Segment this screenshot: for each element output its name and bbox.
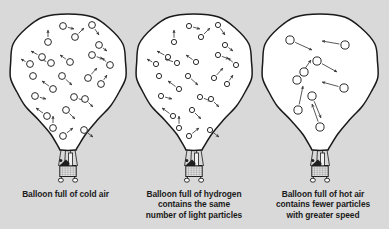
particle bbox=[89, 52, 96, 59]
particle bbox=[107, 62, 114, 69]
particle bbox=[50, 125, 57, 132]
particle bbox=[293, 76, 301, 84]
particle bbox=[71, 94, 78, 101]
particle bbox=[215, 22, 220, 27]
particle bbox=[189, 107, 194, 112]
balloons-layer bbox=[10, 14, 378, 182]
particle bbox=[98, 81, 105, 88]
particle bbox=[193, 59, 198, 64]
particle bbox=[170, 113, 175, 118]
particle bbox=[165, 54, 170, 59]
particle bbox=[185, 73, 190, 78]
particle bbox=[294, 106, 302, 114]
particle bbox=[341, 41, 349, 49]
caption-hydrogen-line-2: contains the same bbox=[131, 199, 257, 209]
particle bbox=[308, 92, 316, 100]
particle bbox=[45, 39, 52, 46]
particle bbox=[32, 93, 39, 100]
particle bbox=[174, 60, 179, 65]
particle bbox=[316, 123, 324, 131]
particle bbox=[48, 60, 55, 67]
caption-hydrogen: Balloon full of hydrogen contains the sa… bbox=[131, 186, 257, 220]
caption-hot-line-3: with greater speed bbox=[257, 210, 389, 220]
particle bbox=[60, 133, 67, 140]
particle bbox=[59, 73, 66, 80]
particle bbox=[96, 42, 103, 49]
particle bbox=[89, 22, 96, 29]
particle bbox=[286, 36, 294, 44]
particle bbox=[82, 96, 89, 103]
particle bbox=[72, 34, 79, 41]
particle bbox=[208, 96, 213, 101]
particle bbox=[39, 54, 46, 61]
particle bbox=[340, 84, 348, 92]
particle bbox=[158, 93, 163, 98]
particle bbox=[81, 127, 88, 134]
caption-hydrogen-line-1: Balloon full of hydrogen bbox=[131, 189, 257, 199]
particle bbox=[153, 61, 158, 66]
particle bbox=[156, 73, 161, 78]
particle bbox=[171, 39, 176, 44]
particle bbox=[233, 62, 238, 67]
particle bbox=[198, 34, 203, 39]
particle bbox=[313, 57, 321, 65]
caption-hot-air: Balloon full of hot air contains fewer p… bbox=[257, 186, 389, 220]
caption-hydrogen-line-3: number of light particles bbox=[131, 210, 257, 220]
particle bbox=[60, 23, 67, 30]
particle bbox=[300, 68, 308, 76]
particle bbox=[197, 94, 202, 99]
particle bbox=[215, 52, 220, 57]
particle bbox=[30, 73, 37, 80]
particle bbox=[63, 107, 70, 114]
particle bbox=[85, 75, 92, 82]
particle bbox=[176, 125, 181, 130]
particle bbox=[50, 86, 57, 93]
caption-cold-line-1: Balloon full of cold air bbox=[0, 189, 131, 199]
caption-cold-air: Balloon full of cold air bbox=[0, 186, 131, 199]
particle bbox=[27, 61, 34, 68]
particle bbox=[222, 42, 227, 47]
particle bbox=[186, 23, 191, 28]
particle bbox=[67, 59, 74, 66]
particle bbox=[224, 81, 229, 86]
caption-row: Balloon full of cold air Balloon full of… bbox=[0, 186, 389, 229]
particle bbox=[211, 75, 216, 80]
particle bbox=[176, 86, 181, 91]
caption-hot-line-2: contains fewer particles bbox=[257, 199, 389, 209]
caption-hot-line-1: Balloon full of hot air bbox=[257, 189, 389, 199]
particle bbox=[207, 127, 212, 132]
particle bbox=[44, 113, 51, 120]
particle bbox=[186, 133, 191, 138]
